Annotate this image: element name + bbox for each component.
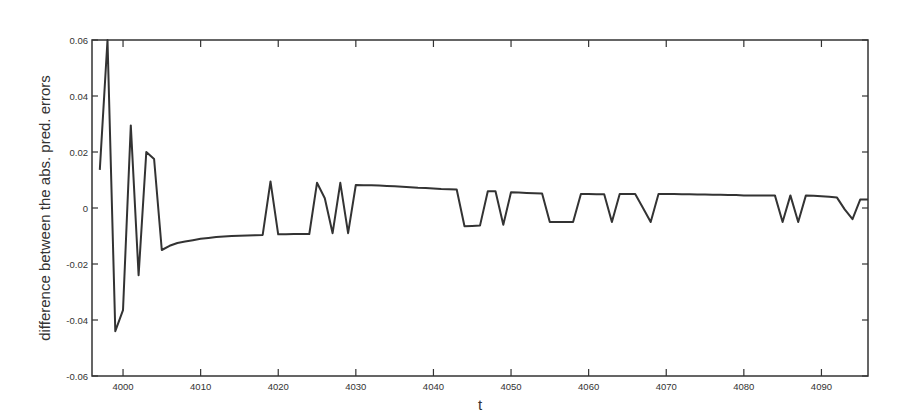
x-axis-label: t	[478, 396, 483, 413]
x-tick-label: 4020	[268, 381, 289, 392]
x-axis-ticks: 4000401040204030404040504060407040804090	[112, 40, 832, 392]
x-tick-label: 4070	[656, 381, 677, 392]
y-tick-label: 0.04	[70, 91, 89, 102]
plot-frame	[92, 40, 868, 376]
y-tick-label: 0	[83, 203, 88, 214]
x-tick-label: 4060	[578, 381, 599, 392]
y-tick-label: -0.06	[66, 371, 88, 382]
y-tick-label: 0.02	[70, 147, 89, 158]
x-tick-label: 4010	[190, 381, 211, 392]
x-tick-label: 4090	[811, 381, 832, 392]
line-chart: 0.060.040.020-0.02-0.04-0.06 40004010402…	[0, 0, 914, 419]
y-tick-label: -0.04	[66, 315, 88, 326]
y-axis-ticks: 0.060.040.020-0.02-0.04-0.06	[66, 35, 868, 382]
y-tick-label: -0.02	[66, 259, 88, 270]
y-axis-label: difference between the abs. pred. errors	[36, 75, 53, 341]
x-tick-label: 4030	[345, 381, 366, 392]
data-series-line	[100, 40, 868, 331]
x-tick-label: 4000	[112, 381, 133, 392]
x-tick-label: 4050	[500, 381, 521, 392]
x-tick-label: 4080	[733, 381, 754, 392]
y-tick-label: 0.06	[70, 35, 89, 46]
x-tick-label: 4040	[423, 381, 444, 392]
